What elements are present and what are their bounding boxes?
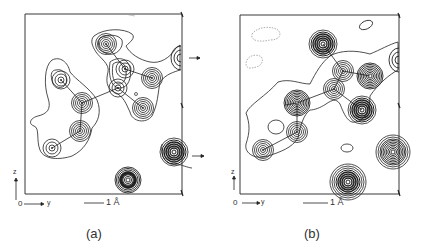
panel-a (15, 12, 205, 206)
figure-canvas (0, 0, 425, 248)
axis-label-y: y (47, 199, 51, 206)
map-frame (25, 14, 182, 194)
axis-label-z: z (13, 168, 17, 175)
panel-caption-a: (a) (86, 226, 102, 241)
axis-origin-label: 0 (18, 199, 22, 208)
panel-caption-b: (b) (304, 226, 320, 241)
axis-origin-label: 0 (233, 198, 237, 207)
arrow-indicators (189, 57, 204, 158)
scale-bar-label: 1 Å (106, 197, 120, 207)
axis-label-y: y (261, 198, 265, 205)
panel-b (233, 13, 411, 205)
envelope-contour (246, 42, 398, 157)
bond-lines (52, 44, 152, 148)
scale-bar-label: 1 Å (330, 197, 344, 207)
axis-label-z: z (231, 168, 235, 175)
bond-lines (263, 44, 370, 150)
